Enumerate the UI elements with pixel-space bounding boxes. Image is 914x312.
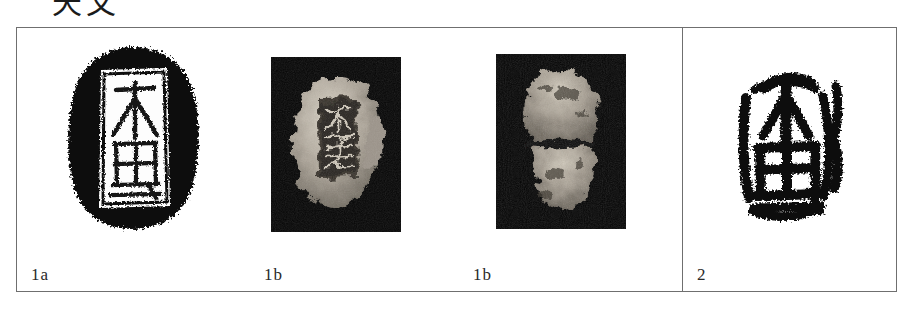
figure-cell-1a: 1a <box>17 28 250 291</box>
figure-cell-label-2: 2 <box>697 265 707 285</box>
cropped-heading-region: 天文 <box>0 0 914 20</box>
figure-table: 1a <box>16 27 897 292</box>
figure-cell-label-1b-reverse: 1b <box>473 265 492 285</box>
seal-impression-positive-image <box>720 46 860 236</box>
cropped-heading-text: 天文 <box>52 0 120 20</box>
artifact-photograph-obverse <box>271 57 401 232</box>
figure-cell-1b-obverse: 1b <box>250 28 459 291</box>
figure-cell-label-1a: 1a <box>31 265 49 285</box>
artifact-photograph-reverse <box>496 54 626 229</box>
figure-cell-1b-reverse: 1b <box>459 28 682 291</box>
figure-cell-2: 2 <box>682 28 896 291</box>
seal-rubbing-negative-image <box>59 43 209 233</box>
figure-cell-label-1b-obverse: 1b <box>264 265 283 285</box>
